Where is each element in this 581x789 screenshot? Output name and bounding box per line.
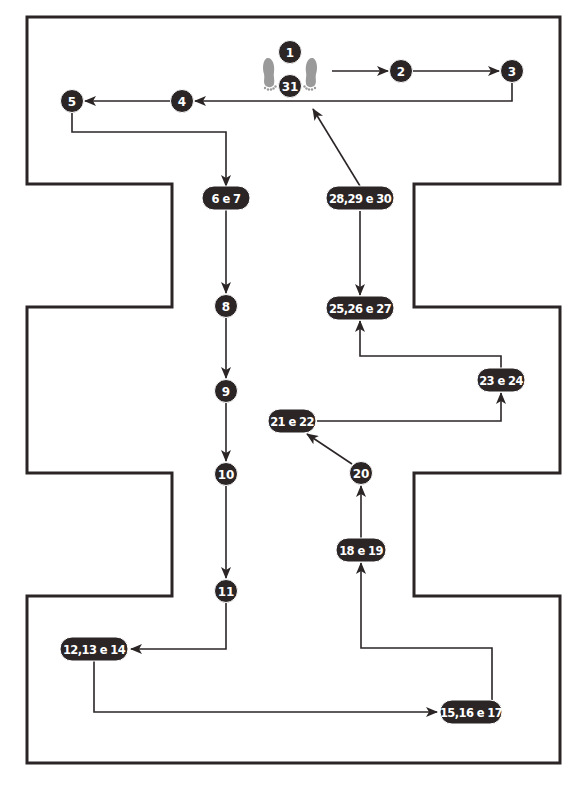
route-arrows — [72, 71, 512, 712]
arrow-15-16-e-17-to-18-e-19 — [361, 563, 492, 700]
node-n11: 11 — [215, 580, 238, 603]
arrow-3-to-4 — [195, 82, 512, 101]
node-n15: 15,16 e 17 — [440, 700, 503, 724]
arrow-12-13-e-14-to-15-16-e-17 — [94, 661, 437, 712]
node-label: 10 — [218, 468, 235, 482]
route-diagram: 13123456 e 789101112,13 e 1415,16 e 1718… — [0, 0, 581, 789]
node-label: 28,29 e 30 — [329, 192, 392, 206]
node-label: 2 — [397, 65, 405, 79]
right-foot-icon — [303, 58, 317, 91]
arrow-23-e-24-to-25-26-e-27 — [360, 321, 501, 368]
node-label: 9 — [222, 385, 230, 399]
arrow-20-to-21-e-22 — [307, 434, 352, 464]
node-label: 18 e 19 — [339, 544, 383, 558]
node-label: 23 e 24 — [479, 374, 523, 388]
node-label: 25,26 e 27 — [329, 302, 392, 316]
node-n1: 1 — [279, 41, 302, 64]
route-nodes: 13123456 e 789101112,13 e 1415,16 e 1718… — [60, 41, 525, 725]
node-label: 20 — [353, 467, 370, 481]
node-n5: 5 — [61, 90, 84, 113]
node-n6: 6 e 7 — [202, 186, 250, 210]
node-n2: 2 — [390, 60, 413, 83]
node-label: 5 — [68, 95, 76, 109]
node-label: 31 — [282, 80, 299, 94]
node-n28: 28,29 e 30 — [326, 186, 394, 210]
node-label: 15,16 e 17 — [440, 706, 503, 720]
node-label: 8 — [222, 300, 230, 314]
arrow-28-29-e-30-to-31 — [313, 109, 360, 186]
arrow-5-to-6-e-7 — [72, 112, 226, 186]
node-n4: 4 — [171, 90, 194, 113]
node-label: 21 e 22 — [270, 415, 314, 429]
node-label: 4 — [178, 95, 186, 109]
arrow-21-e-22-to-23-e-24 — [317, 393, 501, 421]
node-n25: 25,26 e 27 — [326, 296, 394, 320]
node-n20: 20 — [350, 462, 373, 485]
node-n12: 12,13 e 14 — [60, 637, 128, 661]
node-label: 12,13 e 14 — [63, 643, 126, 657]
node-label: 3 — [508, 65, 516, 79]
node-n10: 10 — [215, 463, 238, 486]
node-label: 6 e 7 — [212, 192, 241, 206]
node-n3: 3 — [501, 60, 524, 83]
node-n8: 8 — [215, 295, 238, 318]
left-foot-icon — [263, 58, 277, 91]
arrow-11-to-12-13-e-14 — [131, 602, 226, 649]
node-n18: 18 e 19 — [336, 538, 386, 562]
node-n9: 9 — [215, 380, 238, 403]
node-n21: 21 e 22 — [268, 409, 316, 433]
node-n31: 31 — [279, 75, 302, 98]
node-n23: 23 e 24 — [477, 368, 525, 392]
node-label: 11 — [218, 585, 235, 599]
node-label: 1 — [286, 46, 294, 60]
